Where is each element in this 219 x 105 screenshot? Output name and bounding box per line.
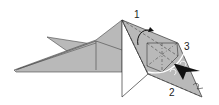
label-1: 1 — [134, 10, 140, 20]
origami-diagram — [0, 0, 219, 105]
label-3: 3 — [184, 42, 190, 52]
label-2: 2 — [169, 88, 175, 98]
